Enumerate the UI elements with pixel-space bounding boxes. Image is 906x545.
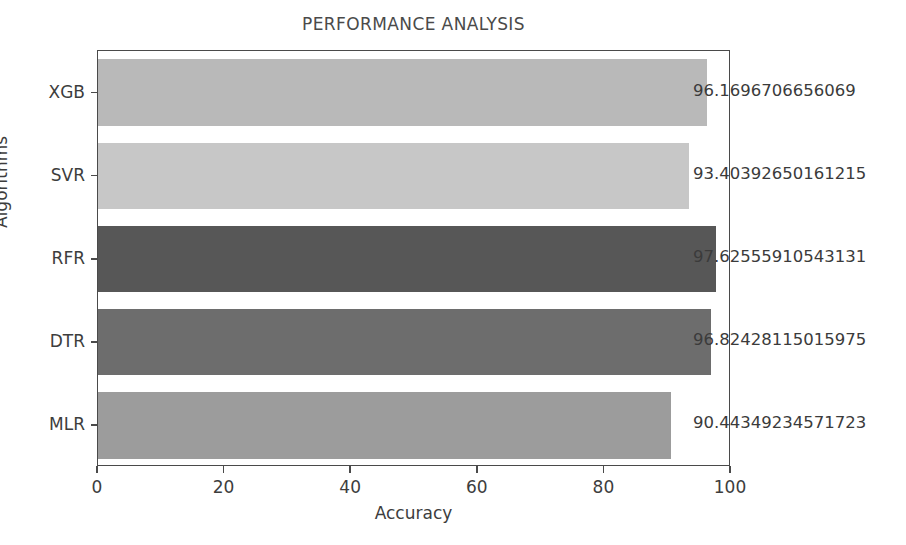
y-tick-label-xgb: XGB: [2, 82, 85, 102]
plot-area: [97, 50, 730, 466]
x-tick-label-60: 60: [447, 477, 507, 497]
bar-rect: [98, 143, 689, 210]
bar-rect: [98, 226, 716, 293]
bar-value-label-rfr: 97.62555910543131: [693, 249, 866, 266]
x-tick-label-40: 40: [320, 477, 380, 497]
bar-value-label-svr: 93.40392650161215: [693, 166, 866, 183]
bar-dtr: [98, 309, 729, 376]
y-tick-mark: [91, 258, 97, 260]
bar-value-label-mlr: 90.44349234571723: [693, 415, 866, 432]
bar-rect: [98, 392, 671, 459]
chart-figure: PERFORMANCE ANALYSIS Algorithms Accuracy…: [0, 0, 906, 545]
bar-svr: [98, 143, 729, 210]
x-tick-mark: [603, 466, 605, 473]
y-tick-mark: [91, 341, 97, 343]
x-tick-label-80: 80: [573, 477, 633, 497]
y-tick-label-svr: SVR: [2, 165, 85, 185]
y-tick-mark: [91, 175, 97, 177]
x-tick-mark: [349, 466, 351, 473]
bar-rect: [98, 309, 711, 376]
bar-value-label-dtr: 96.82428115015975: [693, 332, 866, 349]
y-tick-label-mlr: MLR: [2, 414, 85, 434]
y-tick-label-rfr: RFR: [2, 248, 85, 268]
x-tick-mark: [223, 466, 225, 473]
bar-mlr: [98, 392, 729, 459]
x-axis-title: Accuracy: [97, 503, 730, 523]
x-tick-label-0: 0: [67, 477, 127, 497]
chart-title: PERFORMANCE ANALYSIS: [97, 14, 730, 34]
x-tick-label-100: 100: [700, 477, 760, 497]
bar-rect: [98, 59, 707, 126]
bar-value-label-xgb: 96.1696706656069: [693, 83, 856, 100]
x-tick-mark: [476, 466, 478, 473]
bar-rfr: [98, 226, 729, 293]
x-tick-mark: [96, 466, 98, 473]
y-tick-label-dtr: DTR: [2, 331, 85, 351]
x-tick-mark: [729, 466, 731, 473]
y-tick-mark: [91, 424, 97, 426]
y-tick-mark: [91, 92, 97, 94]
bar-xgb: [98, 59, 729, 126]
x-tick-label-20: 20: [194, 477, 254, 497]
